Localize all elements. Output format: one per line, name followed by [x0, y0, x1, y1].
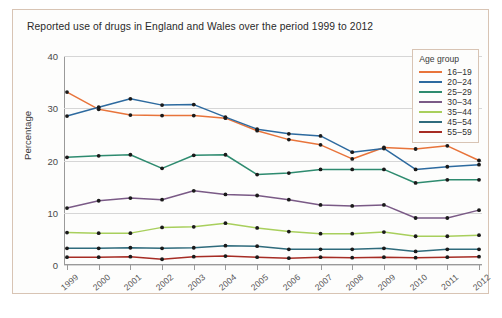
- legend-color-swatch: [419, 131, 442, 134]
- data-point: [319, 255, 323, 259]
- legend-item[interactable]: 16–19: [419, 67, 472, 77]
- data-point: [160, 103, 164, 107]
- legend-item[interactable]: 20–24: [419, 77, 472, 87]
- data-point: [255, 173, 259, 177]
- data-point: [445, 165, 449, 169]
- data-point: [350, 247, 354, 251]
- data-point: [128, 153, 132, 157]
- data-point: [128, 97, 132, 101]
- x-tick: [416, 265, 417, 270]
- x-tick: [352, 265, 353, 270]
- data-point: [255, 127, 259, 131]
- data-point: [160, 114, 164, 118]
- data-point: [224, 244, 228, 248]
- series-line: [67, 191, 479, 218]
- legend-item[interactable]: 35–44: [419, 107, 472, 117]
- x-tick: [384, 265, 385, 270]
- data-point: [445, 178, 449, 182]
- legend-items: 16–1920–2425–2930–3435–4445–5455–59: [419, 67, 472, 137]
- data-point: [160, 257, 164, 261]
- data-point: [350, 167, 354, 171]
- data-point: [350, 150, 354, 154]
- y-tick-label: 20: [47, 155, 58, 166]
- data-point: [255, 194, 259, 198]
- legend-color-swatch: [419, 91, 442, 94]
- x-tick: [162, 265, 163, 270]
- legend-item-label: 20–24: [447, 77, 472, 87]
- data-point: [192, 255, 196, 259]
- legend-title: Age group: [419, 54, 472, 64]
- data-point: [255, 244, 259, 248]
- y-tick-label: 30: [47, 103, 58, 114]
- x-tick-label: 2010: [407, 272, 429, 292]
- data-point: [477, 255, 481, 259]
- data-point: [350, 232, 354, 236]
- legend-color-swatch: [419, 101, 442, 104]
- data-point: [414, 167, 418, 171]
- data-point: [128, 255, 132, 259]
- data-point: [224, 153, 228, 157]
- data-point: [414, 234, 418, 238]
- x-tick-label: 2011: [440, 272, 461, 292]
- x-tick: [194, 265, 195, 270]
- data-point: [287, 171, 291, 175]
- legend-item-label: 45–54: [447, 117, 472, 127]
- x-tick-label: 2005: [249, 272, 271, 292]
- data-point: [65, 90, 69, 94]
- legend-item[interactable]: 55–59: [419, 127, 472, 137]
- x-tick-label: 2009: [376, 272, 398, 292]
- x-tick: [130, 265, 131, 270]
- data-point: [160, 246, 164, 250]
- data-point: [192, 103, 196, 107]
- x-tick-label: 2000: [90, 272, 112, 292]
- data-point: [97, 255, 101, 259]
- y-tick-label: 0: [53, 260, 58, 271]
- data-point: [287, 256, 291, 260]
- data-point: [160, 166, 164, 170]
- data-point: [414, 147, 418, 151]
- legend-item[interactable]: 45–54: [419, 117, 472, 127]
- legend-item-label: 25–29: [447, 87, 472, 97]
- data-point: [224, 193, 228, 197]
- x-tick: [479, 265, 480, 270]
- data-point: [128, 231, 132, 235]
- data-point: [192, 189, 196, 193]
- x-tick-label: 2008: [344, 272, 366, 292]
- x-tick: [67, 265, 68, 270]
- data-point: [477, 247, 481, 251]
- data-point: [477, 208, 481, 212]
- data-point: [445, 255, 449, 259]
- data-point: [224, 254, 228, 258]
- legend-color-swatch: [419, 121, 442, 124]
- data-point: [319, 232, 323, 236]
- data-point: [192, 246, 196, 250]
- x-tick: [225, 265, 226, 270]
- data-point: [319, 143, 323, 147]
- x-tick: [99, 265, 100, 270]
- data-point: [350, 204, 354, 208]
- data-point: [382, 246, 386, 250]
- data-point: [160, 225, 164, 229]
- data-point: [128, 196, 132, 200]
- legend-item[interactable]: 25–29: [419, 87, 472, 97]
- data-point: [224, 115, 228, 119]
- data-point: [65, 231, 69, 235]
- data-point: [445, 216, 449, 220]
- series-35-44: [65, 221, 481, 238]
- data-point: [414, 181, 418, 185]
- x-tick-label: 1999: [59, 272, 81, 292]
- data-point: [382, 230, 386, 234]
- data-point: [319, 247, 323, 251]
- data-point: [287, 138, 291, 142]
- data-point: [287, 230, 291, 234]
- data-point: [65, 255, 69, 259]
- series-55-59: [65, 254, 481, 261]
- data-point: [65, 246, 69, 250]
- legend-item[interactable]: 30–34: [419, 97, 472, 107]
- gridline: [64, 265, 482, 266]
- y-axis-label: Percentage: [22, 111, 33, 160]
- legend-color-swatch: [419, 111, 442, 114]
- chart-figure: Reported use of drugs in England and Wal…: [12, 9, 489, 294]
- data-point: [192, 153, 196, 157]
- data-point: [477, 178, 481, 182]
